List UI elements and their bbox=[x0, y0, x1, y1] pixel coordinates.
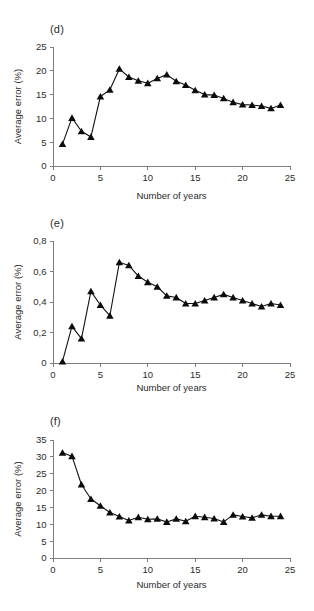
y-tick-label: 10 bbox=[36, 113, 47, 124]
chart-panel-f: (f) 051015202530350510152025Average erro… bbox=[0, 405, 314, 611]
data-point-marker bbox=[116, 65, 124, 72]
y-tick-label: 15 bbox=[36, 89, 47, 100]
x-tick-label: 25 bbox=[285, 564, 296, 575]
data-point-marker bbox=[182, 81, 190, 88]
y-axis-title: Average error (%) bbox=[12, 461, 23, 536]
x-tick-label: 20 bbox=[237, 564, 248, 575]
series-line bbox=[62, 453, 280, 522]
x-tick-label: 5 bbox=[98, 172, 103, 183]
data-point-marker bbox=[191, 87, 199, 94]
x-tick-label: 15 bbox=[190, 172, 201, 183]
data-point-marker bbox=[154, 283, 162, 290]
chart-panel-d: (d) 05101520250510152025Average error (%… bbox=[0, 0, 314, 203]
y-tick-label: 5 bbox=[41, 536, 46, 547]
x-tick-label: 10 bbox=[143, 369, 154, 380]
x-tick-label: 15 bbox=[190, 564, 201, 575]
figure-multi-panel-line-charts: (d) 05101520250510152025Average error (%… bbox=[0, 0, 314, 611]
x-tick-label: 25 bbox=[285, 172, 296, 183]
data-point-marker bbox=[135, 77, 143, 84]
chart-panel-e: (e) 00,20,40,60,80510152025Average error… bbox=[0, 203, 314, 405]
data-point-marker bbox=[97, 502, 105, 509]
plot-d: 05101520250510152025Average error (%)Num… bbox=[0, 0, 314, 203]
y-axis-title: Average error (%) bbox=[12, 69, 23, 144]
series-line bbox=[62, 262, 280, 361]
x-tick-label: 5 bbox=[98, 369, 103, 380]
y-tick-label: 25 bbox=[36, 41, 47, 52]
data-point-marker bbox=[267, 300, 275, 307]
data-point-marker bbox=[97, 93, 105, 100]
x-tick-label: 20 bbox=[237, 369, 248, 380]
y-axis-title: Average error (%) bbox=[12, 264, 23, 339]
data-point-marker bbox=[106, 86, 114, 93]
data-point-marker bbox=[229, 511, 237, 518]
data-point-marker bbox=[87, 133, 95, 140]
y-tick-label: 25 bbox=[36, 468, 47, 479]
data-point-marker bbox=[78, 481, 86, 488]
data-point-marker bbox=[106, 509, 114, 516]
y-tick-label: 30 bbox=[36, 451, 47, 462]
y-tick-label: 0,2 bbox=[33, 327, 46, 338]
data-point-marker bbox=[87, 288, 95, 295]
y-tick-label: 0,8 bbox=[33, 235, 46, 246]
data-point-marker bbox=[172, 78, 180, 85]
y-tick-label: 0 bbox=[41, 357, 46, 368]
y-tick-label: 10 bbox=[36, 519, 47, 530]
data-point-marker bbox=[258, 511, 266, 518]
y-tick-label: 15 bbox=[36, 502, 47, 513]
data-point-marker bbox=[68, 453, 76, 460]
x-tick-label: 25 bbox=[285, 369, 296, 380]
data-point-marker bbox=[68, 323, 76, 330]
x-tick-label: 0 bbox=[50, 564, 55, 575]
data-point-marker bbox=[59, 358, 67, 365]
y-tick-label: 20 bbox=[36, 65, 47, 76]
y-tick-label: 5 bbox=[41, 137, 46, 148]
y-tick-label: 0 bbox=[41, 552, 46, 563]
x-tick-label: 20 bbox=[237, 172, 248, 183]
data-point-marker bbox=[59, 449, 67, 456]
y-tick-label: 0,6 bbox=[33, 266, 46, 277]
series-line bbox=[62, 69, 280, 144]
data-point-marker bbox=[172, 515, 180, 522]
data-point-marker bbox=[97, 301, 105, 308]
x-axis-title: Number of years bbox=[136, 579, 206, 590]
y-tick-label: 20 bbox=[36, 485, 47, 496]
x-tick-label: 15 bbox=[190, 369, 201, 380]
x-tick-label: 0 bbox=[50, 172, 55, 183]
plot-e: 00,20,40,60,80510152025Average error (%)… bbox=[0, 203, 314, 405]
y-tick-label: 0,4 bbox=[33, 296, 46, 307]
data-point-marker bbox=[163, 71, 171, 78]
data-point-marker bbox=[220, 95, 228, 102]
x-axis-title: Number of years bbox=[136, 190, 206, 201]
data-point-marker bbox=[68, 114, 76, 121]
plot-f: 051015202530350510152025Average error (%… bbox=[0, 405, 314, 611]
data-point-marker bbox=[135, 514, 143, 521]
data-point-marker bbox=[229, 99, 237, 106]
data-point-marker bbox=[78, 128, 86, 135]
y-tick-label: 0 bbox=[41, 160, 46, 171]
data-point-marker bbox=[87, 495, 95, 502]
data-point-marker bbox=[125, 517, 133, 524]
data-point-marker bbox=[154, 75, 162, 82]
y-tick-label: 35 bbox=[36, 434, 47, 445]
data-point-marker bbox=[116, 513, 124, 520]
x-tick-label: 10 bbox=[143, 172, 154, 183]
x-tick-label: 5 bbox=[98, 564, 103, 575]
data-point-marker bbox=[220, 291, 228, 298]
data-point-marker bbox=[116, 259, 124, 266]
data-point-marker bbox=[277, 101, 285, 108]
data-point-marker bbox=[59, 141, 67, 148]
x-tick-label: 10 bbox=[143, 564, 154, 575]
data-point-marker bbox=[191, 513, 199, 520]
x-tick-label: 0 bbox=[50, 369, 55, 380]
data-point-marker bbox=[144, 279, 152, 286]
x-axis-title: Number of years bbox=[136, 382, 206, 393]
